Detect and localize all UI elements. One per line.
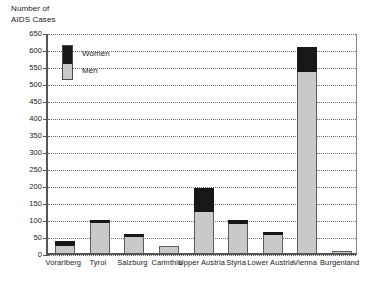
bar-segment-men[interactable]	[159, 246, 179, 253]
bar-segment-women[interactable]	[194, 188, 214, 210]
x-axis-labels: VorarlbergTyrolSalzburgCarinthiaUpper Au…	[46, 258, 357, 278]
y-axis-tick-label: 450	[2, 98, 42, 106]
gridline	[48, 255, 356, 256]
bar-stack[interactable]	[55, 241, 75, 253]
bar-stack[interactable]	[124, 234, 144, 253]
x-axis-tick-label: Burgenland	[316, 258, 363, 267]
y-axis-tick-label: 300	[2, 149, 42, 157]
chart-legend: Women Men	[62, 45, 110, 80]
bar-group[interactable]	[194, 188, 214, 253]
legend-label-women: Women	[82, 45, 110, 62]
y-axis-tick-label: 250	[2, 166, 42, 174]
y-axis-tick-label: 350	[2, 132, 42, 140]
bar-group[interactable]	[124, 234, 144, 253]
bar-stack[interactable]	[228, 220, 248, 253]
plot-area: Women Men	[46, 34, 357, 255]
bar-group[interactable]	[332, 251, 352, 253]
bar-segment-men[interactable]	[194, 211, 214, 254]
chart-title: Number of AIDS Cases	[11, 3, 56, 25]
y-axis-tick-label: 150	[2, 200, 42, 208]
bar-stack[interactable]	[297, 47, 317, 253]
y-axis-tick-label: 400	[2, 115, 42, 123]
legend-swatch	[62, 45, 73, 80]
y-axis-tick-label: 550	[2, 64, 42, 72]
y-axis-tick-label: 200	[2, 183, 42, 191]
bar-stack[interactable]	[332, 251, 352, 253]
legend-label-men: Men	[82, 62, 110, 79]
bar-stack[interactable]	[159, 246, 179, 253]
y-axis-tick-label: 650	[2, 30, 42, 38]
y-axis-tick-label: 50	[2, 234, 42, 242]
legend-labels: Women Men	[82, 45, 110, 80]
bar-segment-men[interactable]	[55, 245, 75, 254]
bar-stack[interactable]	[90, 220, 110, 253]
bar-segment-women[interactable]	[297, 47, 317, 71]
bar-group[interactable]	[297, 47, 317, 253]
bar-segment-men[interactable]	[332, 251, 352, 253]
bar-segment-men[interactable]	[124, 236, 144, 253]
bar-group[interactable]	[90, 220, 110, 253]
y-axis-tick-label: 0	[2, 251, 42, 259]
y-axis-tick	[43, 255, 48, 256]
bar-segment-men[interactable]	[90, 222, 110, 253]
bar-segment-men[interactable]	[263, 234, 283, 253]
bar-stack[interactable]	[194, 188, 214, 253]
bar-group[interactable]	[55, 241, 75, 253]
legend-swatch-women	[63, 46, 72, 63]
y-axis-tick-label: 100	[2, 217, 42, 225]
y-axis-tick-label: 500	[2, 81, 42, 89]
y-axis-tick-label: 600	[2, 47, 42, 55]
bar-segment-men[interactable]	[228, 223, 248, 253]
legend-swatch-men	[63, 63, 72, 79]
bar-group[interactable]	[263, 232, 283, 253]
bar-stack[interactable]	[263, 232, 283, 253]
bar-group[interactable]	[159, 246, 179, 253]
bar-group[interactable]	[228, 220, 248, 253]
y-axis-labels: 050100150200250300350400450500550600650	[0, 34, 42, 255]
bar-segment-men[interactable]	[297, 71, 317, 253]
